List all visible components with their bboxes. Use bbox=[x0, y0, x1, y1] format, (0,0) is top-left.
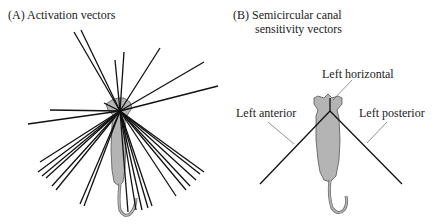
activation-vectors bbox=[28, 30, 218, 212]
diagram-canvas bbox=[0, 0, 444, 224]
vector-posterior bbox=[330, 111, 402, 184]
